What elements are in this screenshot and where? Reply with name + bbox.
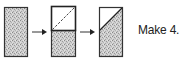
- step-1-shaded-rectangle: [5, 8, 28, 57]
- step-2-square-on-rectangle: [52, 7, 76, 57]
- instruction-caption: Make 4.: [138, 22, 179, 37]
- arrow-right-icon: [32, 29, 47, 35]
- step-3-triangle-rectangle: [100, 8, 123, 57]
- arrow-right-icon: [80, 29, 95, 35]
